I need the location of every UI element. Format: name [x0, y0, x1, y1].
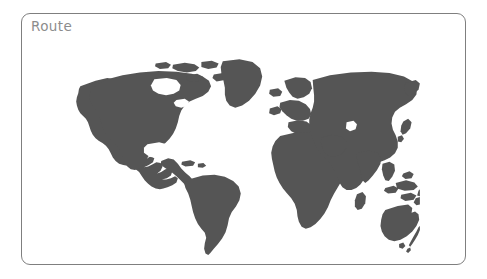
region-arabia — [321, 135, 347, 157]
region-north-america — [89, 71, 211, 170]
region-asia — [309, 72, 417, 190]
region-new-zealand-south — [406, 247, 411, 253]
region-arctic-islands-1 — [172, 63, 199, 73]
region-arctic-islands-3 — [155, 62, 171, 69]
region-australia — [380, 205, 419, 242]
region-africa — [271, 132, 352, 229]
region-greenland — [221, 59, 262, 107]
region-new-guinea-edge — [417, 189, 420, 196]
region-alaska-west — [76, 78, 178, 189]
region-indonesia-1 — [396, 180, 418, 190]
page-title: Route — [31, 20, 72, 34]
region-gulf-of-mexico — [144, 142, 169, 158]
region-central-america — [161, 158, 196, 188]
region-arctic-islands-2 — [201, 61, 218, 69]
route-card[interactable]: Route — [21, 13, 466, 265]
region-hispaniola — [198, 163, 206, 168]
region-new-zealand-north — [409, 226, 420, 247]
region-british-isles — [269, 106, 281, 115]
region-japan — [401, 119, 412, 135]
region-hudson-bay — [151, 78, 181, 95]
region-indonesia-2 — [384, 186, 399, 194]
world-map-container — [22, 14, 465, 264]
region-kamchatka — [404, 80, 420, 95]
region-indochina — [382, 162, 395, 181]
region-india — [356, 151, 381, 184]
region-indonesia-3 — [401, 193, 417, 201]
region-arctic-islands-4 — [186, 74, 203, 82]
region-tasmania — [399, 243, 405, 249]
region-iceland — [269, 88, 282, 96]
region-south-america — [184, 175, 241, 255]
region-madagascar — [355, 192, 366, 210]
world-map-icon — [74, 42, 420, 255]
region-philippines — [402, 171, 414, 179]
region-great-lakes — [174, 99, 189, 108]
region-papua-new-guinea — [414, 197, 420, 205]
region-caspian-sea — [346, 121, 357, 131]
region-arctic-islands-5 — [212, 73, 227, 81]
region-caribbean — [181, 160, 195, 166]
region-western-europe — [280, 100, 312, 121]
region-scandinavia — [284, 77, 312, 98]
land-layer — [76, 59, 420, 255]
region-southern-europe — [288, 120, 314, 135]
region-japan-south — [398, 135, 404, 142]
